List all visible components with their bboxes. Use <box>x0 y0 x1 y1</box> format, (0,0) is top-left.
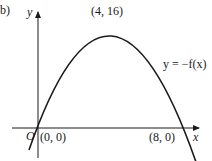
x-axis-label: x <box>193 131 198 143</box>
part-label: b) <box>0 4 10 16</box>
root-point-label: (8, 0) <box>149 131 175 143</box>
curve-label: y = −f(x) <box>163 58 207 70</box>
origin-point-label: (0, 0) <box>40 131 66 143</box>
max-point-label: (4, 16) <box>91 5 123 17</box>
curve-label-text: y = −f(x) <box>163 57 207 71</box>
y-axis-label: y <box>27 6 32 18</box>
origin-label: O <box>26 130 35 142</box>
